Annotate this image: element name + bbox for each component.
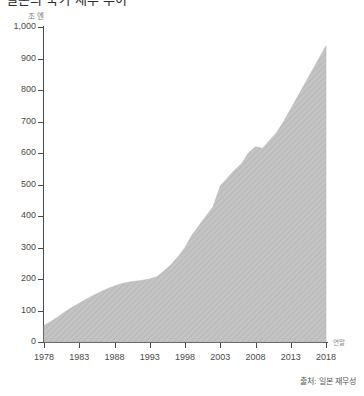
chart-figure: 일본의 국가 채무 추이 조 엔 01002003004005006007008… [0,0,364,396]
area-path [44,46,326,342]
x-axis-end-label: 연말 [333,337,345,347]
source-note: 출처: 일본 재무성 [300,375,356,386]
area-series [0,0,364,396]
